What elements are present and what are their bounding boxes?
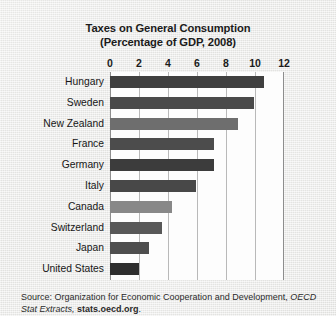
bar-switzerland: [110, 222, 162, 234]
chart-row: Switzerland: [110, 218, 284, 239]
category-label-hungary: Hungary: [65, 75, 104, 89]
source-url[interactable]: stats.oecd.org: [77, 304, 139, 314]
category-label-japan: Japan: [76, 241, 104, 255]
bar-germany: [110, 159, 214, 171]
chart-row: Italy: [110, 176, 284, 197]
category-label-italy: Italy: [85, 179, 104, 193]
bar-japan: [110, 242, 149, 254]
chart-row: Hungary: [110, 72, 284, 93]
category-label-france: France: [72, 137, 104, 151]
chart-row: France: [110, 134, 284, 155]
source-note: Source: Organization for Economic Cooper…: [21, 291, 322, 316]
category-label-new-zealand: New Zealand: [43, 117, 104, 131]
category-label-germany: Germany: [62, 158, 104, 172]
bar-new-zealand: [110, 118, 238, 130]
x-axis-tick-0: 0: [107, 57, 113, 70]
chart-row: United States: [110, 259, 284, 280]
chart-row: New Zealand: [110, 114, 284, 135]
category-label-united-states: United States: [42, 262, 104, 276]
chart-title: Taxes on General Consumption: [0, 21, 336, 35]
chart-subtitle: (Percentage of GDP, 2008): [0, 35, 336, 49]
chart-row: Sweden: [110, 93, 284, 114]
x-axis-tick-labels: 024681012: [110, 57, 284, 71]
category-label-canada: Canada: [68, 200, 104, 214]
bar-italy: [110, 180, 196, 192]
bar-france: [110, 138, 214, 150]
chart-row: Germany: [110, 155, 284, 176]
bar-sweden: [110, 97, 254, 109]
category-label-switzerland: Switzerland: [51, 221, 104, 235]
x-axis-tick-2: 2: [136, 57, 142, 70]
source-organization: Organization for Economic Cooperation an…: [55, 292, 288, 302]
bar-canada: [110, 201, 172, 213]
chart-plot: HungarySwedenNew ZealandFranceGermanyIta…: [110, 72, 284, 280]
x-axis-tick-6: 6: [194, 57, 200, 70]
x-axis-tick-8: 8: [223, 57, 229, 70]
chart-row: Canada: [110, 197, 284, 218]
x-axis-tick-12: 12: [278, 57, 290, 70]
chart-row: Japan: [110, 238, 284, 259]
source-period: .: [139, 304, 142, 314]
source-prefix: Source:: [21, 292, 52, 302]
category-label-sweden: Sweden: [67, 96, 104, 110]
bar-united-states: [110, 263, 139, 275]
x-axis-tick-10: 10: [249, 57, 261, 70]
x-axis-tick-4: 4: [165, 57, 171, 70]
bar-hungary: [110, 76, 264, 88]
chart-title-block: Taxes on General Consumption (Percentage…: [0, 21, 336, 49]
